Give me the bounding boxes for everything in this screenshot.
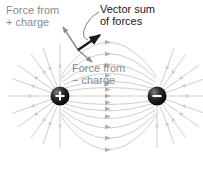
lower-loop-arrowheads — [105, 100, 111, 152]
dipole-field-diagram: Force from + charge Vector sum of forces… — [0, 0, 203, 185]
force-from-plus-charge-label: Force from + charge — [6, 4, 59, 29]
force-vectors-group — [63, 27, 100, 62]
vector-sum-leader-line — [84, 12, 100, 40]
force-from-minus-vector — [78, 50, 92, 62]
positive-charge — [51, 87, 70, 106]
force-from-plus-vector — [63, 27, 78, 50]
negative-charge — [148, 87, 167, 106]
vector-sum-of-forces-label: Vector sum of forces — [100, 3, 155, 28]
field-lines-group — [8, 40, 203, 152]
force-from-minus-charge-label: Force from − charge — [72, 62, 125, 87]
axis-field-line — [70, 94, 147, 99]
